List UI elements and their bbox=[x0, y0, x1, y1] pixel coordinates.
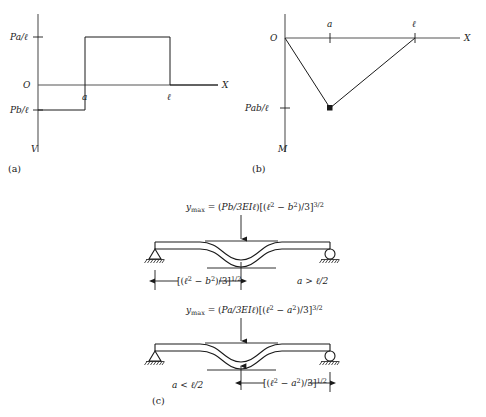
panel-b-label-pab-over-l: Pab/ℓ bbox=[244, 103, 269, 113]
beam-lower-bottom-edge bbox=[155, 351, 330, 369]
beam-upper-bottom-edge bbox=[155, 249, 330, 267]
beam-upper-dimension-label: [(ℓ2 − b2)/3]1/2 bbox=[177, 275, 241, 286]
beam-upper-condition: a > ℓ/2 bbox=[297, 276, 328, 286]
beam-upper-pin-support bbox=[145, 249, 165, 263]
panel-b-xtick-a-label: a bbox=[327, 19, 332, 29]
panel-b-origin-label: O bbox=[270, 33, 278, 43]
panel-a-label-pa-over-l: Pa/ℓ bbox=[9, 32, 28, 42]
beam-lower-formula: ymax = (Pa/3EIℓ)[(ℓ2 − a2)/3]3/2 bbox=[185, 304, 323, 317]
panel-c-tag: (c) bbox=[152, 395, 165, 406]
moment-triangle-curve bbox=[285, 38, 415, 108]
beam-upper-formula: ymax = (Pb/3EIℓ)[(ℓ2 − b2)/3]3/2 bbox=[185, 201, 324, 214]
panel-c-deflection-diagrams: ymax = (Pb/3EIℓ)[(ℓ2 − b2)/3]3/2 bbox=[145, 201, 340, 406]
beam-lower-dimension-label: [(ℓ2 − a2)/3]1/2 bbox=[263, 377, 327, 388]
panel-a-xtick-l-label: ℓ bbox=[167, 92, 171, 102]
beam-lower-pin-support bbox=[145, 351, 165, 365]
panel-a-label-pb-over-l: Pb/ℓ bbox=[9, 105, 29, 115]
beam-lower-roller-support bbox=[320, 351, 340, 365]
beam-lower-top-edge bbox=[155, 344, 330, 362]
beam-upper-roller-support bbox=[320, 249, 340, 263]
panel-a-shear-diagram: Pa/ℓ Pb/ℓ O X V a ℓ (a) bbox=[8, 14, 229, 174]
panel-b-tag: (b) bbox=[252, 163, 266, 174]
panel-b-axis-y-label: M bbox=[277, 144, 288, 154]
panel-a-xtick-a-label: a bbox=[82, 92, 87, 102]
beam-upper-top-edge bbox=[155, 242, 330, 260]
panel-b-axis-x-label: X bbox=[463, 33, 471, 43]
panel-a-axis-x-label: X bbox=[221, 80, 229, 90]
beam-lower-condition: a < ℓ/2 bbox=[172, 380, 203, 390]
panel-b-moment-diagram: O X M a ℓ Pab/ℓ (b) bbox=[244, 14, 471, 174]
beam-upper-group: ymax = (Pb/3EIℓ)[(ℓ2 − b2)/3]3/2 bbox=[145, 201, 340, 290]
panel-b-xtick-l-label: ℓ bbox=[412, 19, 416, 29]
beam-figure: Pa/ℓ Pb/ℓ O X V a ℓ (a) O X M a ℓ Pab/ℓ … bbox=[0, 0, 486, 417]
beam-lower-group: ymax = (Pa/3EIℓ)[(ℓ2 − a2)/3]3/2 bbox=[145, 304, 340, 392]
panel-a-tag: (a) bbox=[8, 163, 21, 174]
shear-step-curve bbox=[38, 37, 218, 110]
moment-peak-marker bbox=[327, 105, 333, 111]
panel-a-origin-label: O bbox=[23, 80, 31, 90]
